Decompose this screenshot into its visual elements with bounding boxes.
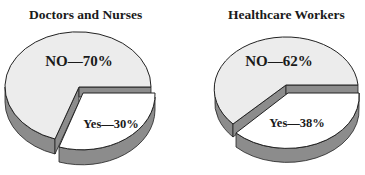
no-label: NO—70% [45, 53, 113, 69]
pie-graphic: NO—70% Yes—30% [0, 0, 180, 175]
yes-label: Yes—30% [83, 117, 139, 131]
pie-chart-healthcare-workers: Healthcare Workers NO—62% Yes—38% [180, 0, 365, 175]
pie-graphic: NO—62% Yes—38% [180, 0, 365, 175]
yes-label: Yes—38% [269, 116, 325, 130]
no-label: NO—62% [245, 53, 313, 69]
pie-chart-doctors-nurses: Doctors and Nurses NO—70% Yes—30% [0, 0, 180, 175]
